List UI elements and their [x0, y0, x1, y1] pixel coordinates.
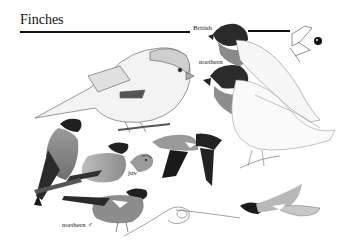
bill-detail-sketch-icon — [290, 26, 312, 62]
bullfinch-male-perched-icon — [34, 119, 82, 206]
bullfinch-northern-male-icon — [62, 188, 147, 232]
bullfinch-juvenile-head-icon — [130, 154, 153, 172]
bullfinch-flying-female-icon — [240, 184, 320, 216]
bullfinch-large-perched-icon — [35, 48, 194, 132]
eye-detail-icon — [314, 37, 322, 45]
bullfinch-flying-male-icon — [152, 134, 222, 186]
illustration-plate — [0, 0, 357, 246]
